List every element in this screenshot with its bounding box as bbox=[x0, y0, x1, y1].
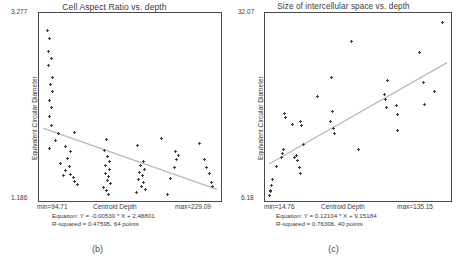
data-point bbox=[208, 172, 211, 175]
data-point bbox=[50, 57, 53, 60]
data-point bbox=[64, 145, 67, 148]
data-point bbox=[383, 93, 386, 96]
data-point bbox=[270, 184, 273, 187]
data-point bbox=[104, 164, 107, 167]
x-axis-min-tick-c: min=14.76 bbox=[264, 203, 295, 210]
data-point bbox=[48, 37, 51, 40]
data-point bbox=[105, 138, 108, 141]
data-point bbox=[284, 116, 287, 119]
data-point bbox=[51, 76, 54, 79]
data-point bbox=[296, 159, 299, 162]
data-point bbox=[47, 50, 50, 53]
y-axis-max-tick-c: 32.07 bbox=[238, 8, 254, 15]
data-point bbox=[282, 148, 285, 151]
rsquared-text-c: R-squared = 0.76306, 40 points bbox=[276, 220, 363, 227]
regression-line-c bbox=[265, 13, 451, 201]
panel-b: Cell Aspect Ratio vs. depth 3.277 1.186 … bbox=[0, 0, 229, 265]
data-point bbox=[423, 103, 426, 106]
data-point bbox=[269, 190, 272, 193]
data-point bbox=[357, 148, 360, 151]
equation-text-b: Equation: Y = -0.00530 * X + 2.48801 bbox=[52, 212, 155, 219]
data-point bbox=[395, 104, 398, 107]
data-point bbox=[54, 139, 57, 142]
data-point bbox=[198, 142, 201, 145]
data-point bbox=[46, 29, 49, 32]
data-point bbox=[302, 143, 305, 146]
data-point bbox=[433, 90, 436, 93]
data-point bbox=[298, 166, 301, 169]
data-point bbox=[169, 177, 172, 180]
data-point bbox=[137, 178, 140, 181]
data-point bbox=[48, 147, 51, 150]
data-point bbox=[64, 169, 67, 172]
data-point bbox=[69, 150, 72, 153]
data-point bbox=[441, 21, 444, 24]
data-point bbox=[396, 113, 399, 116]
data-point bbox=[280, 156, 283, 159]
chart-title-b: Cell Aspect Ratio vs. depth bbox=[0, 2, 229, 12]
data-point bbox=[68, 165, 71, 168]
rsquared-text-b: R-squared = 0.47595, 64 points bbox=[52, 220, 139, 227]
data-point bbox=[103, 149, 106, 152]
data-point bbox=[299, 120, 302, 123]
x-axis-max-tick-c: max=135.15 bbox=[397, 203, 433, 210]
data-point bbox=[73, 131, 76, 134]
regression-line-b bbox=[39, 13, 221, 201]
data-point bbox=[291, 123, 294, 126]
figure-row: Cell Aspect Ratio vs. depth 3.277 1.186 … bbox=[0, 0, 459, 265]
data-point bbox=[51, 90, 54, 93]
data-point bbox=[143, 168, 146, 171]
y-axis-label-c: Equivalent Circular Diameter bbox=[257, 76, 264, 160]
data-point bbox=[47, 64, 50, 67]
chart-title-c: Size of intercellular space vs. depth bbox=[229, 2, 458, 11]
data-point bbox=[140, 185, 143, 188]
data-point bbox=[177, 154, 180, 157]
data-point bbox=[174, 150, 177, 153]
x-axis-max-tick-b: max=229.09 bbox=[175, 203, 211, 210]
x-axis-label-b: Centroid Depth bbox=[93, 203, 137, 210]
data-point bbox=[386, 79, 389, 82]
data-point bbox=[108, 168, 111, 171]
plot-area-b bbox=[38, 12, 222, 202]
panel-c: Size of intercellular space vs. depth 32… bbox=[229, 0, 458, 265]
data-point bbox=[316, 95, 319, 98]
data-point bbox=[396, 129, 399, 132]
data-point bbox=[175, 158, 178, 161]
data-point bbox=[418, 51, 421, 54]
x-axis-label-c: Centroid Depth bbox=[321, 203, 365, 210]
data-point bbox=[135, 191, 138, 194]
data-point bbox=[268, 194, 271, 197]
data-point bbox=[109, 182, 112, 185]
data-point bbox=[329, 120, 332, 123]
data-point bbox=[108, 160, 111, 163]
data-point bbox=[50, 106, 53, 109]
data-point bbox=[49, 83, 52, 86]
data-point bbox=[62, 174, 65, 177]
data-point bbox=[384, 98, 387, 101]
data-point bbox=[173, 166, 176, 169]
data-point bbox=[300, 124, 303, 127]
data-point bbox=[107, 193, 110, 196]
data-point bbox=[330, 76, 333, 79]
data-point bbox=[205, 166, 208, 169]
data-point bbox=[76, 183, 79, 186]
equation-text-c: Equation: Y = 0.12104 * X + 9.15184 bbox=[276, 212, 377, 219]
data-point bbox=[332, 127, 335, 130]
data-point bbox=[144, 188, 147, 191]
data-point bbox=[50, 124, 53, 127]
data-point bbox=[271, 178, 274, 181]
data-point bbox=[422, 81, 425, 84]
data-point bbox=[66, 157, 69, 160]
data-point bbox=[141, 174, 144, 177]
panel-caption-b: (b) bbox=[0, 244, 212, 254]
data-point bbox=[142, 160, 145, 163]
data-point bbox=[295, 154, 298, 157]
data-point bbox=[59, 162, 62, 165]
y-axis-min-tick-c: 6.18 bbox=[241, 194, 254, 201]
data-point bbox=[57, 132, 60, 135]
y-axis-min-tick-b: 1.186 bbox=[11, 194, 27, 201]
data-point bbox=[350, 40, 353, 43]
data-point bbox=[333, 132, 336, 135]
data-point bbox=[203, 158, 206, 161]
data-point bbox=[331, 110, 334, 113]
